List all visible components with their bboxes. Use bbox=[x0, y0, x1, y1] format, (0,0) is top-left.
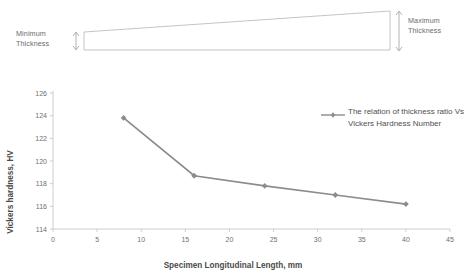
x-axis-tick-label: 5 bbox=[95, 236, 99, 243]
data-point-marker bbox=[262, 183, 268, 189]
y-axis-tick-labels: 114116118120122124126 bbox=[35, 90, 53, 233]
series-polyline bbox=[124, 118, 406, 204]
x-axis-tick-label: 20 bbox=[226, 236, 234, 243]
x-axis-tick-label: 40 bbox=[402, 236, 410, 243]
x-axis-title: Specimen Longitudinal Length, mm bbox=[164, 261, 303, 270]
y-axis-tick-label: 122 bbox=[35, 135, 47, 142]
vickers-hardness-chart: 114116118120122124126 051015202530354045… bbox=[0, 72, 473, 274]
x-axis-tick-label: 0 bbox=[51, 236, 55, 243]
y-axis-tick-label: 120 bbox=[35, 158, 47, 165]
specimen-wedge-shape bbox=[84, 11, 390, 50]
x-axis-tick-label: 35 bbox=[358, 236, 366, 243]
x-axis-tick-labels: 051015202530354045 bbox=[51, 229, 454, 243]
minimum-thickness-arrow bbox=[73, 32, 79, 50]
wedge-diagram: Minimum Thickness Maximum Thickness bbox=[0, 0, 473, 72]
maximum-thickness-label-line1: Maximum bbox=[408, 16, 441, 26]
x-axis-tick-label: 25 bbox=[270, 236, 278, 243]
x-axis-tick-label: 10 bbox=[137, 236, 145, 243]
minimum-thickness-label-line1: Minimum bbox=[16, 29, 49, 39]
x-axis-tick-label: 15 bbox=[181, 236, 189, 243]
x-axis-tick-label: 30 bbox=[314, 236, 322, 243]
y-axis-tick-label: 118 bbox=[36, 180, 47, 187]
screenshot-root: Minimum Thickness Maximum Thickness 1141… bbox=[0, 0, 473, 274]
maximum-thickness-label-line2: Thickness bbox=[408, 26, 441, 36]
data-point-marker bbox=[403, 201, 409, 207]
chart-svg: 114116118120122124126 051015202530354045… bbox=[0, 72, 473, 274]
minimum-thickness-label: Minimum Thickness bbox=[16, 29, 49, 48]
y-axis-tick-label: 124 bbox=[35, 112, 47, 119]
chart-legend: The relation of thickness ratio Vs Vicke… bbox=[321, 106, 471, 129]
y-axis-tick-label: 126 bbox=[35, 90, 47, 97]
y-axis-tick-label: 116 bbox=[36, 203, 47, 210]
legend-marker-icon bbox=[321, 111, 345, 119]
y-axis-tick-label: 114 bbox=[36, 226, 47, 233]
x-axis-tick-label: 45 bbox=[446, 236, 454, 243]
maximum-thickness-arrow bbox=[396, 11, 402, 51]
data-point-marker bbox=[332, 192, 338, 198]
wedge-diagram-svg bbox=[0, 0, 473, 72]
y-axis-title: Vickers hardness, HV bbox=[6, 150, 15, 234]
minimum-thickness-label-line2: Thickness bbox=[16, 39, 49, 49]
maximum-thickness-label: Maximum Thickness bbox=[408, 16, 441, 35]
